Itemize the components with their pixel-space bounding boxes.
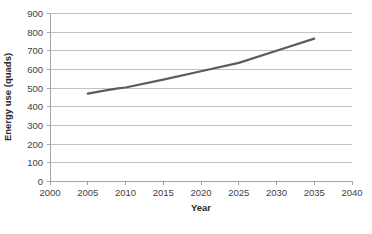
x-tick-labels: 2000 2005 2010 2015 2020 2025 2030 2035 … (39, 187, 362, 198)
y-tick-label: 200 (27, 139, 43, 150)
x-tick-label: 2010 (115, 187, 136, 198)
x-tick-label: 2035 (304, 187, 325, 198)
x-tick-label: 2040 (341, 187, 362, 198)
x-tick-label: 2015 (153, 187, 174, 198)
y-tick-label: 700 (27, 45, 43, 56)
x-tick-label: 2030 (266, 187, 287, 198)
y-tick-label: 0 (38, 176, 43, 187)
y-tick-label: 500 (27, 83, 43, 94)
x-tick-label: 2025 (228, 187, 249, 198)
y-tick-label: 600 (27, 64, 43, 75)
y-tick-label: 400 (27, 101, 43, 112)
x-tick-label: 2005 (77, 187, 98, 198)
data-series-line (88, 39, 315, 94)
x-tick-label: 2020 (190, 187, 211, 198)
y-axis-title: Energy use (quads) (2, 53, 13, 141)
x-axis-title: Year (191, 202, 211, 213)
x-tick-label: 2000 (39, 187, 60, 198)
y-tick-label: 100 (27, 157, 43, 168)
y-tick-label: 300 (27, 120, 43, 131)
line-chart: 900 800 700 600 500 400 300 200 100 0 20… (0, 0, 372, 234)
y-tick-labels: 900 800 700 600 500 400 300 200 100 0 (27, 8, 43, 187)
y-tick-label: 800 (27, 27, 43, 38)
gridlines (50, 14, 352, 163)
chart-canvas: 900 800 700 600 500 400 300 200 100 0 20… (0, 0, 372, 234)
y-tick-label: 900 (27, 8, 43, 19)
x-tick-marks (50, 181, 352, 185)
y-tick-marks (47, 14, 51, 182)
